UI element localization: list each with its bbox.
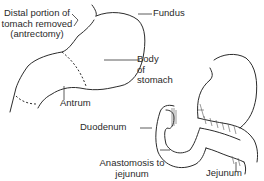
label-anastomosis-line-1: Anastomosis to [92, 158, 172, 169]
label-distal-portion: Distal portion of tomach removed (antrec… [0, 8, 74, 40]
label-body-line-3: stomach [137, 75, 173, 86]
label-duodenum: Duodenum [80, 122, 126, 133]
label-jejunum: Jejunum [206, 168, 242, 179]
label-fundus: Fundus [153, 8, 185, 19]
label-distal-line-1: Distal portion of [0, 8, 74, 19]
label-distal-line-3: (antrectomy) [0, 29, 74, 40]
label-anastomosis: Anastomosis to jejunum [92, 158, 172, 179]
label-body-line-1: Body [137, 54, 173, 65]
label-body-of-stomach: Body of stomach [137, 54, 173, 86]
label-anastomosis-line-2: jejunum [92, 169, 172, 180]
label-antrum: Antrum [60, 98, 91, 109]
